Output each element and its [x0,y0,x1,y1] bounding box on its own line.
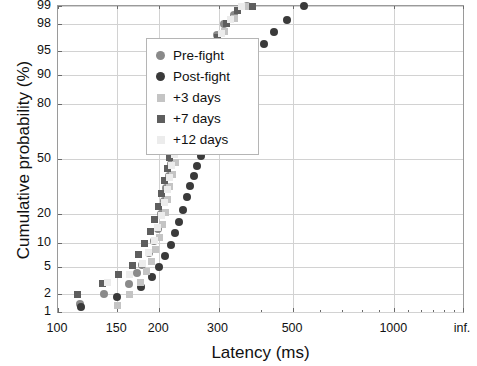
legend-label: Post-fight [173,69,230,84]
x-axis-minor-tick [159,310,160,312]
x-axis-minor-tick [379,310,380,312]
legend-label: +3 days [173,90,221,105]
gridline-horizontal [58,75,463,76]
x-axis-minor-tick [293,310,294,312]
data-point [125,280,133,288]
y-axis-tick-label: 99 [37,0,51,11]
data-point [113,293,121,301]
plot-area: Pre-fightPost-fight+3 days+7 days+12 day… [57,5,464,313]
data-point [74,291,81,298]
x-axis-minor-tick [394,310,395,312]
legend-square-marker-icon [157,115,165,123]
y-axis-tick [58,159,62,160]
data-point [114,302,121,309]
data-point [133,269,141,277]
legend-square-marker-icon [157,94,165,102]
legend-square-marker-icon [157,136,165,144]
y-axis-tick-label: 95 [37,44,51,56]
data-point [143,268,150,275]
legend-label: Pre-fight [173,48,224,63]
data-point [190,172,198,180]
x-axis-tick-label: 200 [128,322,188,334]
legend-item[interactable]: +3 days [147,87,258,108]
gridline-horizontal [58,243,463,244]
x-axis-minor-tick [362,310,363,312]
legend-item[interactable]: Pre-fight [147,45,258,66]
x-axis-tick-top [58,6,59,9]
x-axis-tick-label: 500 [262,322,322,334]
legend-item[interactable]: Post-fight [147,66,258,87]
legend-item[interactable]: +7 days [147,108,258,129]
data-point [260,40,268,48]
data-point [300,2,308,10]
data-point [137,279,144,286]
data-point [227,16,234,23]
data-point [238,3,245,10]
data-point [193,162,201,170]
x-axis-tick-label: 100 [27,322,87,334]
x-axis-tick-top [117,6,118,9]
gridline-horizontal [58,267,463,268]
y-axis-tick-label: 98 [37,17,51,29]
legend-label: +12 days [173,132,228,147]
gridline-horizontal [58,24,463,25]
y-axis-tick-label: 2 [44,287,51,299]
data-point [164,186,171,193]
gridline-horizontal [58,51,463,52]
y-axis-tick [58,214,62,215]
data-point [167,241,175,249]
data-point [283,16,291,24]
y-axis-tick-label: 90 [37,68,51,80]
y-axis-tick [58,75,62,76]
gridline-horizontal [58,104,463,105]
data-point [100,290,108,298]
legend-item[interactable]: +12 days [147,129,258,150]
data-point [129,262,136,269]
data-point [126,291,133,298]
x-axis-tick-top [219,6,220,9]
gridline-horizontal [58,312,463,313]
data-point [158,212,165,219]
y-axis-tick-label: 1 [44,305,51,317]
y-axis-tick [58,104,62,105]
x-axis-tick-top [159,6,160,9]
data-point [183,193,191,201]
data-point [175,218,183,226]
y-axis-tick-label: 50 [37,152,51,164]
data-point [161,252,169,260]
x-axis-minor-tick [219,310,220,312]
data-point [115,271,122,278]
y-axis-tick-label: 5 [44,260,51,272]
x-axis-tick-top [293,6,294,9]
data-point [161,199,168,206]
data-point [151,237,158,244]
legend: Pre-fightPost-fight+3 days+7 days+12 day… [146,38,259,155]
data-point [218,30,225,37]
data-point [104,279,111,286]
data-point [171,229,179,237]
x-axis-minor-tick [261,310,262,312]
data-point [168,162,175,169]
x-axis-tick-top [394,6,395,9]
y-axis-tick-label: 80 [37,97,51,109]
x-axis-minor-tick [342,310,343,312]
x-axis-tick-label: 300 [188,322,248,334]
data-point [166,174,173,181]
x-axis-minor-tick [421,310,422,312]
data-point [141,240,148,247]
y-axis-tick [58,24,62,25]
data-point [145,249,152,256]
data-point [186,182,194,190]
data-point [179,206,187,214]
x-axis-tick [463,308,464,312]
data-point [139,260,146,267]
gridline-vertical [394,6,395,312]
data-point [148,258,155,265]
y-axis-tick [58,312,62,313]
x-axis-tick-label: inf. [432,322,477,334]
gridline-horizontal [58,6,463,7]
y-axis-tick [58,243,62,244]
gridline-horizontal [58,214,463,215]
x-axis-tick-top [463,6,464,9]
x-axis-tick [58,308,59,312]
